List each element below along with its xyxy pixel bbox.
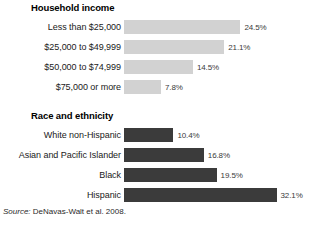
panel-title-race-ethnicity: Race and ethnicity bbox=[31, 110, 113, 121]
bar-row: Black19.5% bbox=[0, 165, 333, 185]
bar-plot-area: 21.1% bbox=[124, 37, 333, 57]
bar-category-label: $25,000 to $49,999 bbox=[0, 42, 124, 52]
bar-value-label: 19.5% bbox=[221, 171, 243, 180]
bar-rect bbox=[124, 80, 161, 94]
bar-rect bbox=[124, 40, 224, 54]
source-note: Source: DeNavas-Walt et al. 2008. bbox=[3, 207, 126, 216]
bar-category-label: Less than $25,000 bbox=[0, 22, 124, 32]
bar-value-label: 7.8% bbox=[165, 83, 183, 92]
bar-group-race-ethnicity: White non-Hispanic10.4%Asian and Pacific… bbox=[0, 125, 333, 205]
bar-plot-area: 7.8% bbox=[124, 77, 333, 97]
bar-plot-area: 10.4% bbox=[124, 125, 333, 145]
bar-row: White non-Hispanic10.4% bbox=[0, 125, 333, 145]
bar-rect bbox=[124, 148, 204, 162]
bar-rect bbox=[124, 128, 173, 142]
bar-value-label: 14.5% bbox=[197, 63, 219, 72]
chart-figure: Household income Less than $25,00024.5%$… bbox=[0, 0, 333, 227]
bar-row: Asian and Pacific Islander16.8% bbox=[0, 145, 333, 165]
bar-rect bbox=[124, 168, 217, 182]
bar-value-label: 32.1% bbox=[281, 191, 303, 200]
bar-category-label: White non-Hispanic bbox=[0, 130, 124, 140]
bar-plot-area: 24.5% bbox=[124, 17, 333, 37]
bar-rect bbox=[124, 188, 277, 202]
bar-row: $75,000 or more7.8% bbox=[0, 77, 333, 97]
bar-plot-area: 19.5% bbox=[124, 165, 333, 185]
bar-value-label: 21.1% bbox=[228, 43, 250, 52]
bar-group-household-income: Less than $25,00024.5%$25,000 to $49,999… bbox=[0, 17, 333, 97]
bar-value-label: 10.4% bbox=[177, 131, 199, 140]
panel-title-household-income: Household income bbox=[31, 2, 114, 13]
bar-row: Less than $25,00024.5% bbox=[0, 17, 333, 37]
bar-value-label: 24.5% bbox=[244, 23, 266, 32]
bar-value-label: 16.8% bbox=[208, 151, 230, 160]
bar-plot-area: 14.5% bbox=[124, 57, 333, 77]
bar-category-label: Asian and Pacific Islander bbox=[0, 150, 124, 160]
source-prefix: Source: bbox=[3, 207, 31, 216]
bar-category-label: $50,000 to $74,999 bbox=[0, 62, 124, 72]
bar-row: Hispanic32.1% bbox=[0, 185, 333, 205]
bar-row: $50,000 to $74,99914.5% bbox=[0, 57, 333, 77]
source-text: DeNavas-Walt et al. 2008. bbox=[33, 207, 126, 216]
bar-category-label: $75,000 or more bbox=[0, 82, 124, 92]
bar-category-label: Hispanic bbox=[0, 190, 124, 200]
bar-plot-area: 32.1% bbox=[124, 185, 333, 205]
bar-rect bbox=[124, 60, 193, 74]
bar-plot-area: 16.8% bbox=[124, 145, 333, 165]
bar-row: $25,000 to $49,99921.1% bbox=[0, 37, 333, 57]
bar-category-label: Black bbox=[0, 170, 124, 180]
bar-rect bbox=[124, 20, 240, 34]
